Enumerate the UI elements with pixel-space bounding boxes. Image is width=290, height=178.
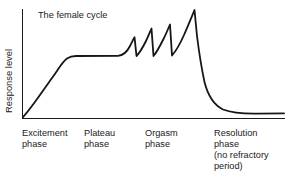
phase-label-plateau-line1: Plateau (84, 128, 115, 138)
response-cycle-chart: The female cycle Response level Exciteme… (0, 0, 290, 178)
phase-label-orgasm: Orgasm phase (145, 128, 178, 149)
phase-label-orgasm-line1: Orgasm (145, 128, 178, 138)
phase-label-orgasm-line2: phase (145, 139, 170, 149)
phase-label-excitement: Excitement phase (22, 128, 68, 149)
figure-container: The female cycle Response level Exciteme… (0, 0, 290, 178)
response-level-curve (23, 10, 284, 117)
phase-label-excitement-line1: Excitement (22, 128, 68, 138)
chart-title: The female cycle (38, 10, 107, 20)
phase-label-resolution-line3: (no refractory (214, 150, 269, 160)
phase-label-resolution-line4: period) (214, 161, 243, 171)
phase-label-plateau-line2: phase (84, 139, 109, 149)
phase-label-resolution: Resolution phase (no refractory period) (214, 128, 269, 171)
phase-label-resolution-line1: Resolution (214, 128, 257, 138)
phase-label-plateau: Plateau phase (84, 128, 115, 149)
y-axis-label: Response level (3, 49, 14, 113)
phase-label-resolution-line2: phase (214, 139, 239, 149)
phase-label-excitement-line2: phase (22, 139, 47, 149)
